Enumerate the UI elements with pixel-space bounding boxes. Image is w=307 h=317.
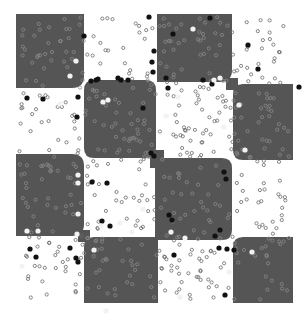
bright-particle (242, 147, 247, 152)
dark-particle (149, 59, 154, 64)
bright-particle (129, 229, 134, 234)
dark-particle (171, 252, 176, 257)
dark-particle (165, 85, 170, 90)
dark-particle (75, 259, 80, 264)
dark-particle (169, 217, 174, 222)
dark-particle (207, 15, 212, 20)
bright-particle (98, 223, 103, 228)
bright-particle (249, 249, 254, 254)
dark-particle (170, 31, 175, 36)
dark-particle (231, 247, 236, 252)
bright-particle (211, 77, 216, 82)
bright-particle (75, 180, 80, 185)
dark-particle (212, 233, 217, 238)
bright-particle (24, 228, 29, 233)
dark-particle (223, 176, 228, 181)
dark-particle (67, 245, 72, 250)
dark-block (84, 237, 158, 303)
dark-particle (74, 114, 79, 119)
bright-particle (73, 58, 78, 63)
dark-particle (163, 75, 168, 80)
bright-particle (168, 229, 173, 234)
bright-particle (190, 26, 195, 31)
dark-particle (200, 77, 205, 82)
dark-particle (222, 292, 227, 297)
dark-particle (151, 153, 156, 158)
pattern-canvas (0, 0, 307, 317)
dark-particle (151, 48, 156, 53)
dark-particle (107, 223, 112, 228)
bright-particle (100, 99, 105, 104)
dark-particle (140, 105, 145, 110)
bright-particle (75, 211, 80, 216)
dark-particle (89, 179, 94, 184)
dark-particle (296, 84, 301, 89)
dark-particle (40, 96, 45, 101)
dark-particle (224, 246, 229, 251)
dark-particle (255, 66, 260, 71)
dark-particle (33, 254, 38, 259)
dark-particle (24, 95, 29, 100)
bright-particle (105, 97, 110, 102)
bright-particle (19, 263, 24, 268)
dark-particle (81, 33, 86, 38)
dark-particle (216, 245, 221, 250)
bright-particle (175, 94, 180, 99)
dark-particle (93, 77, 98, 82)
dark-particle (104, 180, 109, 185)
bright-particle (236, 102, 241, 107)
bright-particle (140, 206, 145, 211)
dark-particle (27, 246, 32, 251)
bright-particle (182, 235, 187, 240)
dark-particle (118, 77, 123, 82)
dark-particle (150, 69, 155, 74)
bright-particle (75, 172, 80, 177)
bright-particle (103, 308, 108, 313)
bright-particle (117, 220, 122, 225)
dark-particle (125, 77, 130, 82)
dark-particle (245, 42, 250, 47)
dark-particle (99, 218, 104, 223)
bright-particle (67, 73, 72, 78)
bright-particle (226, 269, 231, 274)
dark-particle (88, 78, 93, 83)
bright-particle (217, 75, 222, 80)
bright-particle (57, 101, 62, 106)
dark-particle (221, 169, 226, 174)
dark-particle (146, 14, 151, 19)
bright-particle (163, 113, 168, 118)
dark-particle (217, 227, 222, 232)
bright-particle (177, 294, 182, 299)
bright-particle (35, 228, 40, 233)
bright-particle (91, 247, 96, 252)
dark-particle (166, 212, 171, 217)
dark-block (16, 14, 84, 88)
dark-particle (75, 94, 80, 99)
bright-particle (221, 124, 226, 129)
bright-particle (74, 231, 79, 236)
